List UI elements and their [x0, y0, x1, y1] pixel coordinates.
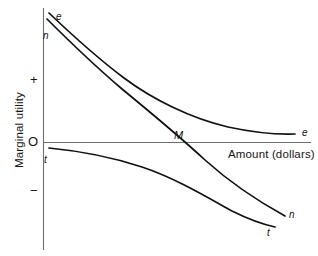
- marginal-utility-chart: Marginal utility Amount (dollars) + O − …: [0, 0, 318, 256]
- curve-e: [49, 13, 295, 134]
- x-axis-title: Amount (dollars): [228, 149, 315, 161]
- curve-e-end-label: e: [302, 128, 308, 138]
- curve-n-start-label: n: [43, 31, 49, 41]
- curve-t-end-label: t: [267, 228, 270, 238]
- curve-n: [47, 19, 285, 216]
- point-m-label: M: [174, 130, 183, 141]
- y-tick-zero: O: [28, 135, 38, 148]
- y-axis-title: Marginal utility: [14, 92, 26, 168]
- curve-n-end-label: n: [289, 210, 295, 220]
- curve-e-start-label: e: [56, 12, 62, 22]
- curve-t-start-label: t: [44, 155, 47, 165]
- y-tick-plus: +: [30, 73, 38, 86]
- y-tick-minus: −: [30, 184, 38, 197]
